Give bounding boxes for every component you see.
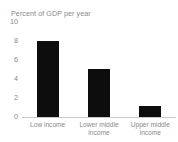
x-tick-label-line: income xyxy=(125,129,176,137)
bar-chart: Percent of GDP per year 1086420 Low inco… xyxy=(0,0,178,142)
x-tick-label: Upper middleincome xyxy=(125,119,176,142)
x-tick-label-line: Lower middle xyxy=(73,121,124,129)
plot-area: 1086420 Low incomeLower middleincomeUppe… xyxy=(0,0,178,142)
y-tick-label: 8 xyxy=(7,37,18,44)
x-tick-label: Lower middleincome xyxy=(73,119,124,142)
y-tick-label: 2 xyxy=(7,94,18,101)
x-tick-label-line: Low income xyxy=(22,121,73,129)
y-tick-label: 6 xyxy=(7,56,18,63)
x-tick-label-line: income xyxy=(73,129,124,137)
x-tick-label-line: Upper middle xyxy=(125,121,176,129)
x-axis-category-labels: Low incomeLower middleincomeUpper middle… xyxy=(22,119,176,142)
y-tick-label: 0 xyxy=(7,113,18,120)
bar xyxy=(88,69,110,117)
x-tick-label: Low income xyxy=(22,119,73,142)
bar xyxy=(37,41,59,117)
y-tick-label: 4 xyxy=(7,75,18,82)
bar xyxy=(139,106,161,117)
y-tick-label: 10 xyxy=(7,18,18,25)
y-axis: 1086420 xyxy=(7,0,18,142)
